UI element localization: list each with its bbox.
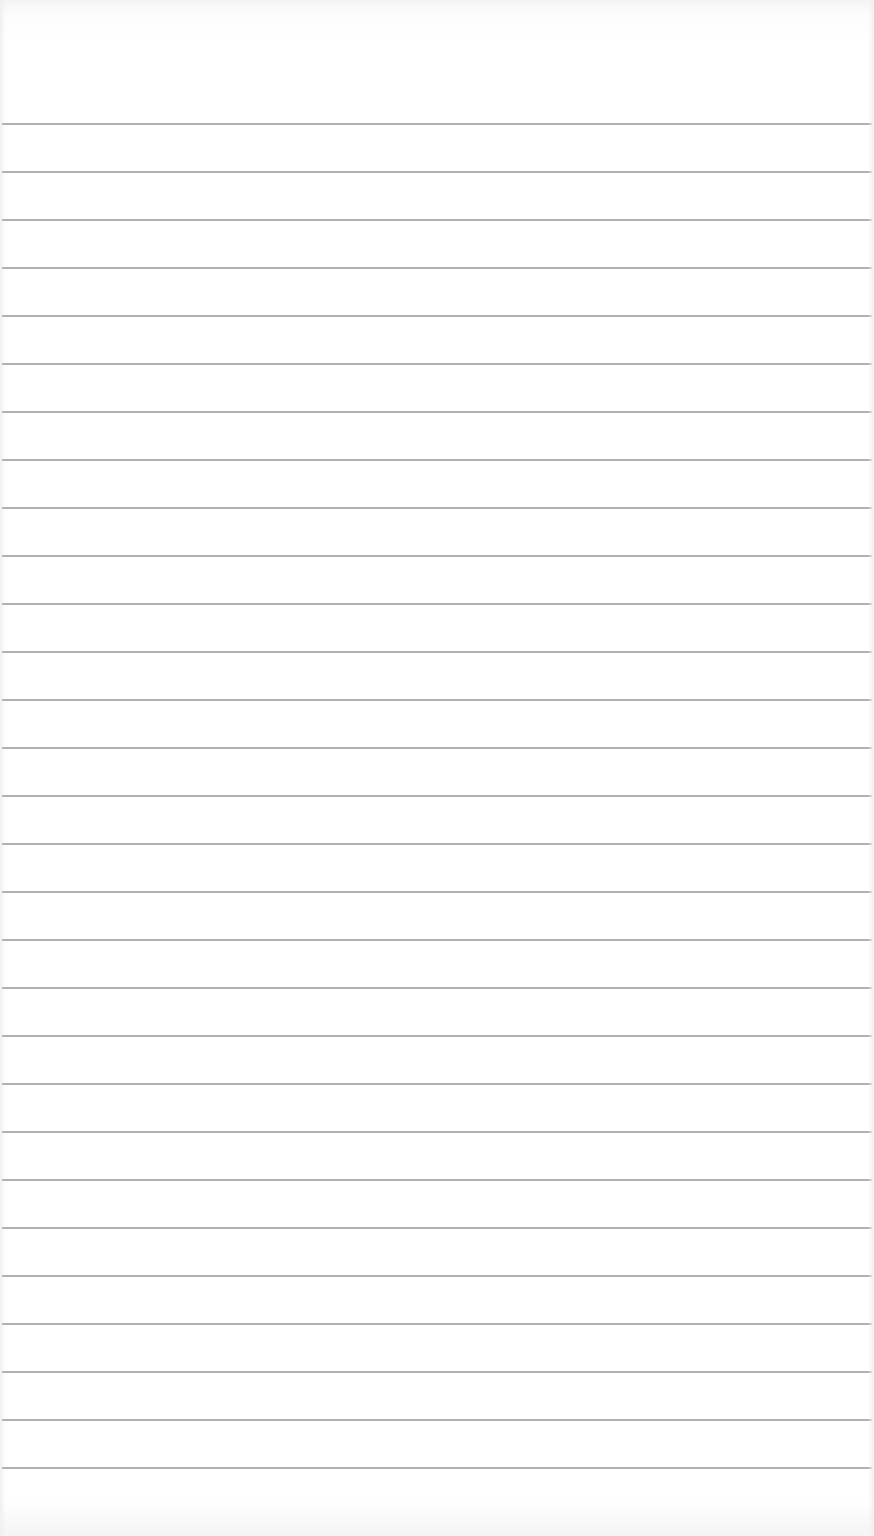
ruled-line (2, 1275, 872, 1277)
ruled-line (2, 267, 872, 269)
ruled-line (2, 1323, 872, 1325)
ruled-line (2, 651, 872, 653)
ruled-line (2, 555, 872, 557)
ruled-line (2, 987, 872, 989)
ruled-line (2, 603, 872, 605)
ruled-line (2, 507, 872, 509)
ruled-line (2, 171, 872, 173)
lined-paper (0, 0, 874, 1536)
ruled-line (2, 891, 872, 893)
ruled-line (2, 363, 872, 365)
ruled-line (2, 123, 872, 125)
ruled-line (2, 1467, 872, 1469)
ruled-line (2, 1371, 872, 1373)
ruled-line (2, 939, 872, 941)
ruled-line (2, 699, 872, 701)
ruled-line (2, 1227, 872, 1229)
ruled-line (2, 1035, 872, 1037)
ruled-line (2, 1419, 872, 1421)
ruled-line (2, 315, 872, 317)
ruled-line (2, 843, 872, 845)
ruled-line (2, 459, 872, 461)
ruled-line (2, 747, 872, 749)
ruled-line (2, 1083, 872, 1085)
ruled-line (2, 411, 872, 413)
ruled-line (2, 1131, 872, 1133)
ruled-line (2, 795, 872, 797)
ruled-line (2, 1179, 872, 1181)
ruled-line (2, 219, 872, 221)
